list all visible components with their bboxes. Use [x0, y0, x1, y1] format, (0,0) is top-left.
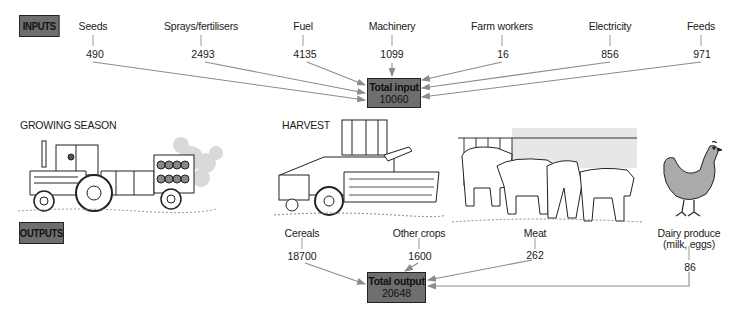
total-output-label: Total output	[368, 275, 425, 287]
input-value: 16	[497, 48, 509, 60]
arrow-farm-workers	[422, 62, 502, 80]
input-value: 1099	[380, 48, 403, 60]
input-label: Sprays/fertilisers	[164, 20, 238, 32]
combine-harvester-illustration	[274, 117, 444, 220]
input-value: 856	[601, 48, 619, 60]
arrow-seeds	[93, 62, 365, 100]
section-growing-season: GROWING SEASON	[20, 119, 116, 131]
total-input-box: Total input 10060	[367, 78, 421, 108]
inputs-tag-text: INPUTS	[23, 20, 56, 32]
input-label: Farm workers	[471, 20, 533, 32]
output-label: Cereals	[285, 227, 320, 239]
input-label: Fuel	[293, 20, 313, 32]
output-label-line2: (milk, eggs)	[663, 238, 715, 250]
total-input-value: 10060	[368, 93, 420, 105]
input-label: Machinery	[369, 20, 416, 32]
cattle-illustration	[452, 126, 642, 226]
input-label: Feeds	[687, 20, 715, 32]
total-input-label: Total input	[368, 81, 420, 93]
output-value: 262	[526, 249, 544, 261]
arrow-electricity	[422, 62, 610, 88]
output-label: Meat	[524, 227, 547, 239]
total-output-box: Total output 20648	[367, 272, 426, 303]
output-value: 18700	[287, 250, 316, 262]
input-value: 971	[693, 48, 711, 60]
outputs-tag-text: OUTPUTS	[20, 227, 63, 239]
outputs-tag: OUTPUTS	[19, 222, 64, 244]
input-value: 490	[86, 48, 104, 60]
input-label: Seeds	[79, 20, 108, 32]
output-label: Other crops	[393, 227, 446, 239]
input-value: 4135	[293, 48, 316, 60]
arrow-other-crops	[405, 263, 418, 271]
arrow-feeds	[422, 62, 701, 97]
arrow-dairy	[428, 272, 689, 286]
inputs-tag: INPUTS	[19, 15, 60, 37]
arrow-meat	[428, 260, 532, 280]
arrow-fuel	[307, 62, 365, 85]
arrow-cereals	[305, 263, 365, 284]
output-value: 86	[684, 261, 696, 273]
output-value: 1600	[408, 250, 431, 262]
hen-illustration	[660, 140, 724, 220]
tractor-illustration	[16, 133, 231, 215]
input-value: 2493	[191, 48, 214, 60]
total-output-value: 20648	[368, 287, 425, 299]
input-label: Electricity	[589, 20, 632, 32]
